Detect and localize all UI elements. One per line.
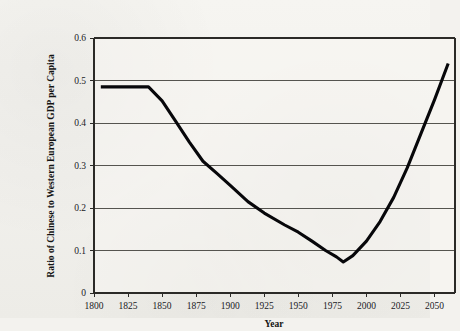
gdp-ratio-line-chart: 00.10.20.30.40.50.6 18001825185018751900… — [40, 16, 390, 302]
y-tick-label-0.1: 0.1 — [74, 246, 86, 256]
y-tick-label-0: 0 — [81, 288, 86, 298]
y-tick-label-0.4: 0.4 — [74, 118, 86, 128]
x-tick-label-1900: 1900 — [221, 301, 240, 311]
x-axis-tick-labels: 1800182518501875190019251950197520002025… — [85, 301, 445, 311]
x-tick-label-2050: 2050 — [425, 301, 444, 311]
x-tick-label-1800: 1800 — [85, 301, 104, 311]
x-tick-label-1875: 1875 — [187, 301, 206, 311]
x-tick-label-1850: 1850 — [153, 301, 172, 311]
x-tick-label-1825: 1825 — [119, 301, 138, 311]
y-axis-tick-labels: 00.10.20.30.40.50.6 — [74, 33, 86, 298]
x-tick-label-1975: 1975 — [323, 301, 342, 311]
x-tick-label-2000: 2000 — [357, 301, 376, 311]
chart-canvas: 00.10.20.30.40.50.6 18001825185018751900… — [40, 16, 460, 331]
x-tick-label-1925: 1925 — [255, 301, 274, 311]
y-tick-label-0.5: 0.5 — [74, 76, 86, 86]
y-tick-label-0.2: 0.2 — [74, 203, 86, 213]
x-tick-label-1950: 1950 — [289, 301, 308, 311]
x-axis-ticks — [94, 293, 435, 297]
y-tick-label-0.3: 0.3 — [74, 161, 86, 171]
y-axis-title: Ratio of Chinese to Western European GDP… — [46, 54, 56, 278]
x-tick-label-2025: 2025 — [391, 301, 410, 311]
y-tick-label-0.6: 0.6 — [74, 33, 86, 43]
x-axis-title: Year — [265, 319, 285, 329]
y-axis-ticks — [90, 38, 94, 293]
